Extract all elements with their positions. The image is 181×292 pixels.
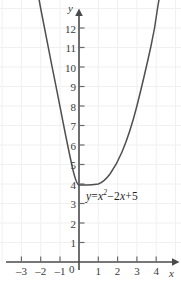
y-tick-label-6: 6 (56, 141, 76, 152)
x-tick-label-neg1: –1 (48, 266, 72, 277)
equation-plus: + (125, 190, 132, 202)
equation-constant: 5 (132, 190, 138, 202)
x-axis-label: x (169, 268, 174, 279)
y-tick-label-4: 4 (56, 180, 76, 191)
y-axis-label: y (68, 3, 73, 14)
y-tick-label-7: 7 (56, 121, 76, 132)
y-tick-label-5: 5 (56, 160, 76, 171)
equation-equals: = (91, 190, 98, 202)
parabola-graph-figure: y x 0 1 2 3 4 5 6 7 8 9 10 11 12 –3 –2 –… (0, 0, 181, 292)
y-tick-label-3: 3 (56, 199, 76, 210)
plot-canvas (0, 0, 181, 292)
x-tick-label-4: 4 (144, 266, 168, 277)
x-axis-ticks (21, 257, 156, 263)
grid-lines (0, 0, 181, 262)
y-tick-label-10: 10 (52, 63, 76, 74)
equation-minus: − (107, 190, 114, 202)
y-tick-label-11: 11 (52, 43, 76, 54)
y-tick-label-1: 1 (56, 238, 76, 249)
y-axis-ticks (79, 28, 85, 243)
y-tick-label-8: 8 (56, 102, 76, 113)
y-tick-label-12: 12 (52, 24, 76, 35)
equation-annotation: y=x2−2x+5 (86, 191, 138, 203)
y-tick-label-9: 9 (56, 82, 76, 93)
y-tick-label-2: 2 (56, 219, 76, 230)
